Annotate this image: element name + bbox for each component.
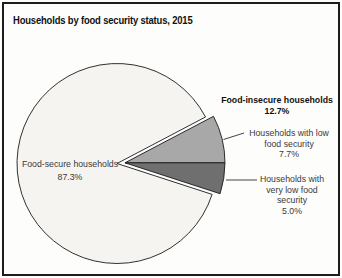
- label-food-secure-households: Food-secure households 87.3%: [13, 158, 127, 183]
- label-low-food-security: Households with low food security 7.7%: [238, 128, 339, 160]
- figure-households-food-security: Households by food security status, 2015…: [0, 0, 342, 278]
- label-very-low-food-security: Households with very low food security 5…: [246, 174, 338, 216]
- label-food-insecure-households: Food-insecure households 12.7%: [217, 94, 337, 116]
